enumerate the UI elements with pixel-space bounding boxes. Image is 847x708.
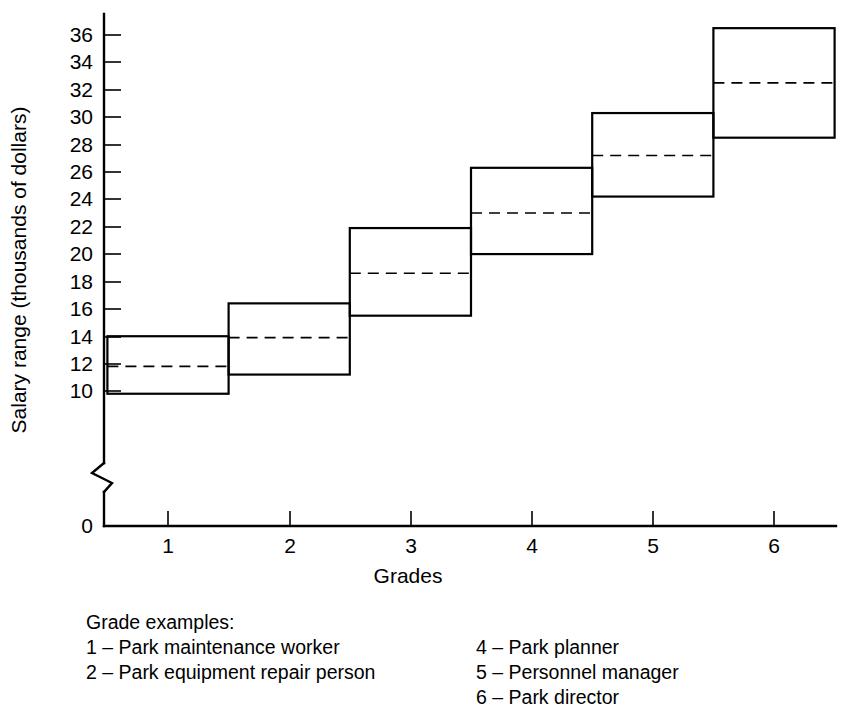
range-box [229,303,350,374]
legend-item-grade-1: 1 – Park maintenance worker [86,635,476,660]
y-tick-label: 10 [70,379,93,402]
chart-svg: Salary range (thousands of dollars) 36 3… [0,0,847,600]
x-tick-label: 3 [405,534,417,557]
y-tick-label: 34 [70,50,94,73]
x-tick-marks [168,511,774,526]
legend-item-grade-6: 6 – Park director [476,685,776,708]
y-axis-break-zigzag [92,463,112,492]
y-tick-label: 16 [70,297,93,320]
y-tick-label: 30 [70,105,93,128]
y-tick-label: 22 [70,215,93,238]
y-tick-label: 20 [70,242,93,265]
x-tick-label: 1 [162,534,174,557]
legend-column-right: 4 – Park planner 5 – Personnel manager 6… [476,610,776,708]
legend-item-grade-5: 5 – Personnel manager [476,660,776,685]
y-tick-label: 14 [70,325,94,348]
x-tick-label: 4 [526,534,538,557]
y-tick-labels: 36 34 32 30 28 26 24 22 20 18 16 14 12 1… [70,23,94,537]
x-tick-label: 5 [647,534,659,557]
y-tick-label: 28 [70,133,93,156]
y-tick-label: 0 [81,514,93,537]
range-box [471,168,592,254]
range-box [350,228,471,316]
y-tick-label: 36 [70,23,93,46]
range-boxes-layer [107,28,834,394]
x-tick-label: 6 [768,534,780,557]
y-tick-label: 18 [70,270,93,293]
y-tick-label: 26 [70,160,93,183]
y-tick-label: 32 [70,78,93,101]
range-box [107,336,228,394]
y-axis-label: Salary range (thousands of dollars) [7,107,30,434]
legend-item-grade-4: 4 – Park planner [476,635,776,660]
y-tick-label: 12 [70,352,93,375]
x-tick-labels: 1 2 3 4 5 6 [162,534,780,557]
grade-examples-legend: Grade examples: 1 – Park maintenance wor… [86,610,786,708]
legend-title: Grade examples: [86,610,476,635]
legend-item-grade-2: 2 – Park equipment repair person [86,660,476,685]
y-tick-label: 24 [70,187,94,210]
x-axis-label: Grades [374,564,443,587]
x-tick-label: 2 [284,534,296,557]
legend-column-left: Grade examples: 1 – Park maintenance wor… [86,610,476,708]
